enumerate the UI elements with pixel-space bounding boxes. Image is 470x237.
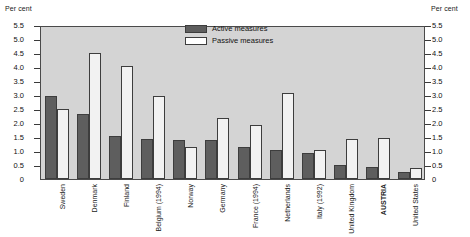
- bar-passive: [217, 118, 229, 179]
- bar-passive: [121, 66, 133, 179]
- bar-group: [137, 27, 169, 179]
- right-axis-title: Per cent: [431, 5, 458, 12]
- legend-label: Passive measures: [212, 36, 273, 45]
- y-tick-label-left: 4.0: [0, 64, 24, 72]
- bar-passive: [57, 109, 69, 179]
- category-label: Denmark: [91, 184, 98, 212]
- bar-group: [73, 27, 105, 179]
- bar-active: [45, 96, 57, 179]
- legend-item: Passive measures: [185, 36, 273, 45]
- category-label: Belgium (1994): [155, 184, 162, 231]
- bar-active: [366, 167, 378, 179]
- bar-active: [302, 153, 314, 179]
- bar-active: [334, 165, 346, 179]
- legend-label: Active measures: [212, 24, 267, 33]
- category-label: Finland: [123, 184, 130, 207]
- bar-active: [270, 150, 282, 179]
- bar-active: [238, 147, 250, 179]
- bar-active: [173, 140, 185, 179]
- y-tick-label-right: 2.5: [432, 106, 456, 114]
- y-tick-label-left: 4.5: [0, 50, 24, 58]
- y-tick-label-left: 0: [0, 176, 24, 184]
- bar-group: [298, 27, 330, 179]
- category-label: United Kingdom: [348, 184, 355, 234]
- legend-swatch-active: [185, 25, 207, 33]
- category-label: Italy (1992): [316, 184, 323, 219]
- bars-container: [41, 27, 424, 179]
- y-tick-label-right: 0.5: [432, 162, 456, 170]
- y-tick-label-left: 3.0: [0, 92, 24, 100]
- y-tick-label-left: 1.5: [0, 134, 24, 142]
- y-tick-label-right: 1.5: [432, 134, 456, 142]
- bar-active: [205, 140, 217, 179]
- bar-group: [169, 27, 201, 179]
- bar-active: [398, 172, 410, 179]
- y-tick-label-left: 2.5: [0, 106, 24, 114]
- category-label: United States: [412, 184, 419, 226]
- bar-group: [41, 27, 73, 179]
- bar-group: [362, 27, 394, 179]
- category-label: France (1994): [252, 184, 259, 228]
- chart-legend: Active measuresPassive measures: [185, 24, 273, 45]
- legend-swatch-passive: [185, 37, 207, 45]
- category-label: Germany: [219, 184, 226, 213]
- category-label: Norway: [187, 184, 194, 208]
- bar-group: [105, 27, 137, 179]
- bar-group: [330, 27, 362, 179]
- y-tick-label-left: 3.5: [0, 78, 24, 86]
- bar-passive: [185, 147, 197, 179]
- bar-group: [234, 27, 266, 179]
- bar-passive: [346, 139, 358, 179]
- y-tick-label-right: 3.5: [432, 78, 456, 86]
- bar-group: [266, 27, 298, 179]
- bar-passive: [314, 150, 326, 179]
- legend-item: Active measures: [185, 24, 273, 33]
- y-tick-label-left: 0.5: [0, 162, 24, 170]
- chart-figure: Per cent Per cent 000.50.51.01.01.51.52.…: [0, 0, 470, 237]
- y-tick-label-right: 4.0: [432, 64, 456, 72]
- bar-passive: [282, 93, 294, 179]
- y-tick-label-right: 5.0: [432, 36, 456, 44]
- bar-group: [201, 27, 233, 179]
- bar-active: [77, 114, 89, 179]
- category-label: AUSTRIA: [380, 184, 387, 215]
- category-label: Netherlands: [284, 184, 291, 222]
- category-label: Sweden: [59, 184, 66, 209]
- y-tick-label-right: 0: [432, 176, 456, 184]
- plot-area: [40, 26, 425, 180]
- y-tick-label-left: 5.5: [0, 22, 24, 30]
- y-tick-label-left: 2.0: [0, 120, 24, 128]
- y-tick-label-right: 5.5: [432, 22, 456, 30]
- bar-passive: [378, 138, 390, 179]
- y-tick-label-left: 1.0: [0, 148, 24, 156]
- bar-passive: [89, 53, 101, 179]
- bar-group: [394, 27, 426, 179]
- y-tick-label-left: 5.0: [0, 36, 24, 44]
- y-tick-label-right: 3.0: [432, 92, 456, 100]
- bar-passive: [250, 125, 262, 179]
- bar-active: [109, 136, 121, 179]
- bar-passive: [410, 168, 422, 179]
- left-axis-title: Per cent: [5, 5, 32, 12]
- y-tick-label-right: 4.5: [432, 50, 456, 58]
- y-tick-label-right: 1.0: [432, 148, 456, 156]
- y-tick-label-right: 2.0: [432, 120, 456, 128]
- bar-passive: [153, 96, 165, 179]
- bar-active: [141, 139, 153, 179]
